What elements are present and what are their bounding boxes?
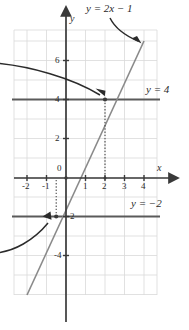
x-tick-label-minus-1: -1 [42,182,50,191]
y-tick-label-6: 6 [55,56,60,65]
equation-label-y-equals-4: y = 4 [146,84,169,95]
x-tick-label-1: 1 [83,182,88,191]
y-tick-label-4: 4 [55,95,60,104]
x-tick-label-3: 3 [122,182,127,191]
equation-label-line: y = 2x − 1 [86,3,133,14]
y-tick-label-minus-4: -4 [54,251,62,260]
x-tick-label-2: 2 [102,182,107,191]
y-tick-label-2: 2 [55,134,60,143]
point-x-axis-upper-foot [104,177,107,180]
graph-figure: y x y = 2x − 1 y = 4 y = −2 -2 -1 1 2 3 … [0,0,189,330]
arrow-to-upper-intersection-path [0,63,100,95]
point-origin-marker [64,176,67,179]
point-lower-intersection [54,214,58,218]
x-tick-label-minus-2: -2 [22,182,30,191]
point-upper-intersection [103,97,107,101]
y-tick-label-0: 0 [57,164,62,173]
equation-label-y-equals-negative-2: y = −2 [131,198,162,209]
y-axis-label: y [70,14,74,24]
arrowhead-equation [132,36,142,44]
x-tick-label-4: 4 [141,182,146,191]
y-tick-label-minus-2: -2 [67,212,75,221]
x-axis-label: x [157,163,161,173]
x-axis-arrowhead [169,174,178,183]
arrow-to-lower-intersection-path [0,223,48,253]
arrowhead-upper [96,89,106,97]
